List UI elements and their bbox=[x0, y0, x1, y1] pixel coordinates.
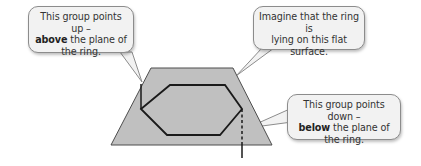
callout-points-up: This group points up – above the plane o… bbox=[28, 6, 134, 53]
callout-up-line2: the plane of bbox=[67, 34, 126, 45]
callout-down-line3: the ring. bbox=[293, 134, 395, 146]
callout-down-line2: the plane of bbox=[330, 122, 389, 133]
flat-surface-plane bbox=[111, 68, 272, 145]
callout-surface-line2: lying on this flat bbox=[259, 34, 359, 46]
callout-up-line3: the ring. bbox=[34, 46, 128, 58]
callout-down-bold: below bbox=[298, 122, 330, 133]
callout-points-down: This group points down – below the plane… bbox=[287, 94, 401, 140]
callout-up-bold: above bbox=[35, 34, 67, 45]
callout-surface-line3: surface. bbox=[259, 46, 359, 58]
callout-up-line1: This group points up – bbox=[34, 11, 128, 34]
callout-down-line1: This group points down – bbox=[293, 99, 395, 122]
callout-flat-surface: Imagine that the ring is lying on this f… bbox=[253, 6, 365, 50]
callout-surface-line1: Imagine that the ring is bbox=[259, 11, 359, 34]
